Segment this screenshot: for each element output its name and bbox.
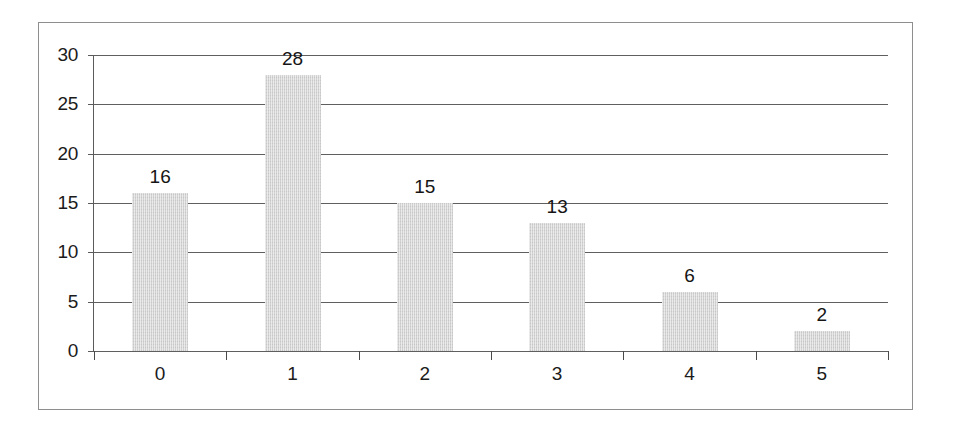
y-axis-tick-label: 10: [34, 242, 78, 261]
y-axis-tick-label: 5: [34, 292, 78, 311]
y-axis-tick-label: 15: [34, 193, 78, 212]
bar-value-label: 13: [517, 197, 597, 216]
bar: [794, 331, 850, 351]
bar: [397, 203, 453, 351]
bar: [265, 75, 321, 351]
bar-value-label: 16: [120, 167, 200, 186]
y-axis-tick-label: 20: [34, 144, 78, 163]
bar-chart-figure: 051015202530 012345 1628151362: [0, 0, 953, 435]
x-axis-tick-label: 4: [650, 364, 730, 383]
bar: [132, 193, 188, 351]
x-axis-tick-label: 1: [253, 364, 333, 383]
bar-value-label: 6: [650, 266, 730, 285]
x-axis-tick-label: 3: [517, 364, 597, 383]
x-tick-mark: [491, 351, 492, 360]
y-axis-tick-label: 30: [34, 45, 78, 64]
bar-value-label: 28: [253, 49, 333, 68]
x-tick-mark: [888, 351, 889, 360]
bar: [662, 292, 718, 351]
bar-value-label: 15: [385, 177, 465, 196]
x-axis-tick-label: 2: [385, 364, 465, 383]
x-axis-tick-label: 0: [120, 364, 200, 383]
x-axis-tick-label: 5: [782, 364, 862, 383]
y-axis-tick-label: 25: [34, 94, 78, 113]
x-tick-mark: [623, 351, 624, 360]
x-tick-mark: [359, 351, 360, 360]
bar-value-label: 2: [782, 305, 862, 324]
x-tick-mark: [94, 351, 95, 360]
x-tick-mark: [226, 351, 227, 360]
bar: [529, 223, 585, 351]
y-axis-tick-label: 0: [34, 341, 78, 360]
plot-area: [94, 55, 888, 351]
x-tick-mark: [756, 351, 757, 360]
